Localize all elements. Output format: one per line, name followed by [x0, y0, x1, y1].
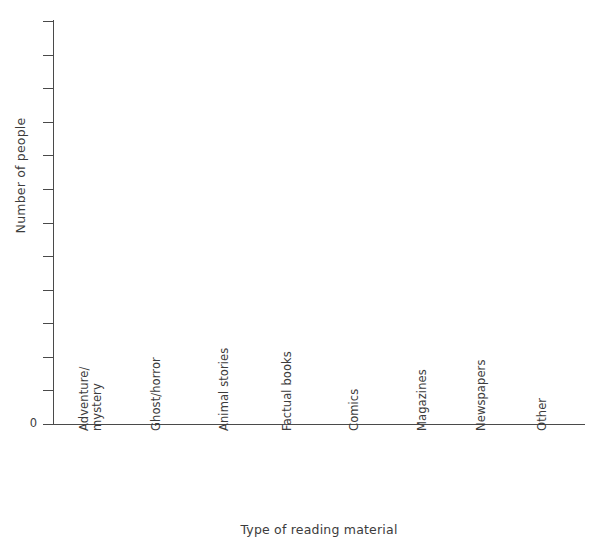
x-axis-category-label: Ghost/horror	[150, 357, 163, 431]
y-axis-tick	[43, 21, 54, 22]
y-axis-tick	[43, 88, 54, 89]
y-axis-tick	[43, 390, 54, 391]
x-axis-title: Type of reading material	[53, 522, 585, 537]
y-axis-tick	[43, 55, 54, 56]
y-axis-title: Number of people	[13, 106, 28, 246]
y-axis-tick	[43, 357, 54, 358]
x-axis-category-label: Factual books	[281, 351, 294, 431]
x-axis-category-label: Magazines	[416, 369, 429, 431]
x-axis-category-label: Newspapers	[475, 359, 488, 431]
x-axis-line	[53, 424, 585, 425]
x-axis-category-label: Animal stories	[218, 348, 231, 431]
y-axis-tick	[43, 189, 54, 190]
y-axis-tick	[43, 256, 54, 257]
bar-chart: · · 0 Adventure/ mysteryGhost/horrorAnim…	[0, 0, 600, 554]
chart-title-remnant: · ·	[0, 0, 600, 1]
plot-area	[54, 20, 585, 424]
y-axis-tick	[43, 290, 54, 291]
y-axis-tick-label-text: 0	[0, 418, 37, 430]
y-axis-tick	[43, 155, 54, 156]
x-axis-category-label: Adventure/ mystery	[78, 367, 104, 431]
x-axis-category-label: Other	[536, 398, 549, 431]
x-axis-category-label: Comics	[348, 389, 361, 431]
y-axis-tick	[43, 223, 54, 224]
y-axis-tick	[43, 424, 54, 425]
y-axis-tick	[43, 323, 54, 324]
y-axis-tick	[43, 122, 54, 123]
